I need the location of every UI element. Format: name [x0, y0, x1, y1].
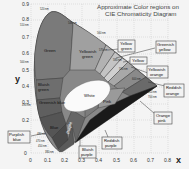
callout-yellow-green: Yellow green [118, 40, 135, 52]
svg-text:0.6: 0.6 [22, 50, 29, 56]
nm-570: 570 nm [99, 48, 108, 52]
svg-text:0.8: 0.8 [22, 16, 29, 22]
callout-orange-pink: Orange pink [154, 112, 172, 124]
callout-reddish-purple: Reddish purple [102, 137, 122, 149]
nm-540: 540 nm [68, 21, 77, 25]
svg-text:0: 0 [29, 157, 32, 163]
label-blue: Blue [50, 125, 59, 130]
svg-text:purple: purple [105, 143, 117, 148]
svg-text:0.3: 0.3 [78, 157, 85, 163]
label-pink: Pink [103, 99, 112, 104]
svg-text:0.2: 0.2 [22, 117, 29, 123]
nm-520: 520 nm [40, 7, 49, 11]
svg-text:0.5: 0.5 [113, 157, 120, 163]
title-line-2: CIE Chromaticity Diagram [105, 10, 177, 17]
svg-text:0.2: 0.2 [61, 157, 68, 163]
label-bluish-green-2: green [38, 87, 49, 92]
svg-text:0.1: 0.1 [44, 157, 51, 163]
nm-590: 590 nm [119, 67, 128, 71]
x-axis-label: x [176, 155, 181, 165]
callout-yellowish-orange: Yellowish orange [147, 66, 168, 78]
svg-text:0.4: 0.4 [22, 83, 29, 89]
nm-500: 500 nm [20, 60, 29, 64]
title-line-1: Approximate Color regions on [97, 3, 179, 10]
nm-510: 510 nm [20, 23, 29, 27]
callout-yellow: Yellow [130, 57, 147, 64]
label-yellowish-green-2: green [82, 54, 93, 59]
svg-text:Reddish: Reddish [166, 85, 182, 90]
svg-text:pink: pink [158, 118, 167, 123]
svg-text:Yellow: Yellow [132, 58, 145, 63]
callout-purplish-blue: Purplish blue [8, 131, 30, 143]
nm-610: 610 nm [148, 90, 157, 94]
x-axis-ticks: 0 0.1 0.2 0.3 0.4 0.5 0.6 0.7 0.8 [29, 157, 171, 163]
svg-text:0.3: 0.3 [22, 99, 29, 105]
nm-560: 560 nm [97, 31, 106, 35]
svg-text:0.5: 0.5 [22, 67, 29, 73]
svg-text:0.7: 0.7 [22, 34, 29, 40]
svg-text:green: green [121, 46, 132, 51]
callout-reddish-orange: Reddish orange [164, 84, 184, 97]
nm-580: 580 nm [113, 58, 122, 62]
label-white: White [84, 93, 95, 98]
svg-text:orange: orange [150, 72, 164, 77]
svg-text:0.9: 0.9 [22, 1, 29, 7]
nm-600: 600 nm [132, 77, 141, 81]
svg-text:0: 0 [24, 150, 27, 156]
nm-450: 450 nm [38, 144, 47, 148]
nm-380: 380 nm [45, 150, 54, 154]
svg-text:blue: blue [13, 137, 22, 142]
label-green: Green [44, 48, 56, 53]
nm-470: 470 nm [36, 139, 45, 143]
svg-text:0.7: 0.7 [147, 157, 154, 163]
label-greenish-blue: Greenish blue [39, 100, 66, 105]
nm-700: 700 nm [148, 95, 157, 99]
svg-text:0.6: 0.6 [130, 157, 137, 163]
svg-text:0.8: 0.8 [164, 157, 171, 163]
y-axis-label: y [15, 74, 20, 84]
callout-greenish-yellow: Greenish yellow [156, 41, 176, 53]
svg-text:0.4: 0.4 [95, 157, 102, 163]
svg-text:yellow: yellow [159, 47, 172, 52]
cie-chromaticity-diagram: Green Yellowish green Bluish green Green… [0, 0, 189, 169]
svg-text:orange: orange [166, 91, 180, 96]
